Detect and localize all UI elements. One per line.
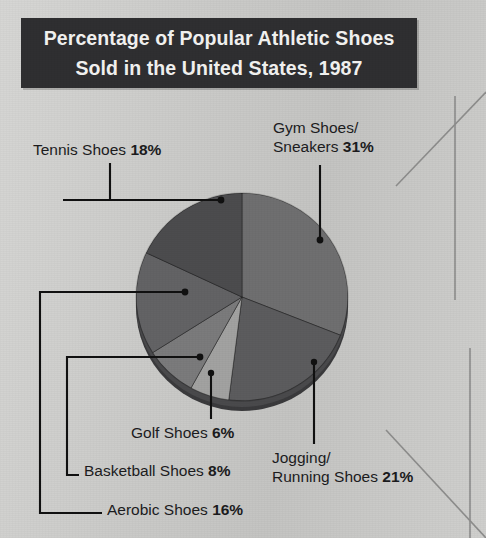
slice-label-basketball-value: 8% <box>208 462 230 479</box>
slice-label-tennis-shoes: Tennis Shoes 18% <box>33 140 161 159</box>
slice-label-basketball-shoes: Basketball Shoes 8% <box>84 461 231 480</box>
slice-label-jogging-running-shoes: Jogging/ Running Shoes 21% <box>272 448 413 486</box>
slice-label-golf-shoes: Golf Shoes 6% <box>131 423 234 442</box>
leader-dot-aerobic <box>182 289 189 296</box>
slice-label-tennis-name: Tennis Shoes <box>33 141 126 158</box>
slice-label-aerobic-value: 16% <box>212 501 243 518</box>
slice-label-aerobic-name: Aerobic Shoes <box>107 501 208 518</box>
leader-dot-gym <box>317 237 324 244</box>
slice-label-gym-value: 31% <box>343 138 374 155</box>
slice-label-jogging-name-line2: Running Shoes <box>272 468 378 485</box>
leader-line-tennis <box>63 163 221 200</box>
slice-label-golf-value: 6% <box>212 424 234 441</box>
slice-label-tennis-value: 18% <box>130 141 161 158</box>
slice-label-aerobic-shoes: Aerobic Shoes 16% <box>107 500 243 519</box>
slice-label-basketball-name: Basketball Shoes <box>84 462 204 479</box>
slice-label-gym-name-line1: Gym Shoes/ <box>273 118 374 137</box>
slice-label-gym-name-line2: Sneakers <box>273 138 338 155</box>
slice-label-golf-name: Golf Shoes <box>131 424 208 441</box>
leader-dot-golf <box>208 370 214 376</box>
leader-dot-tennis <box>218 197 225 204</box>
scan-diagonal-top <box>396 92 486 186</box>
slice-label-jogging-value: 21% <box>382 468 413 485</box>
pie-slices <box>136 193 348 401</box>
leader-dot-jogging <box>311 359 317 365</box>
slice-label-jogging-name-line1: Jogging/ <box>272 448 413 467</box>
leader-dot-basketball <box>197 354 204 361</box>
slice-label-gym-shoes: Gym Shoes/ Sneakers 31% <box>273 118 374 156</box>
